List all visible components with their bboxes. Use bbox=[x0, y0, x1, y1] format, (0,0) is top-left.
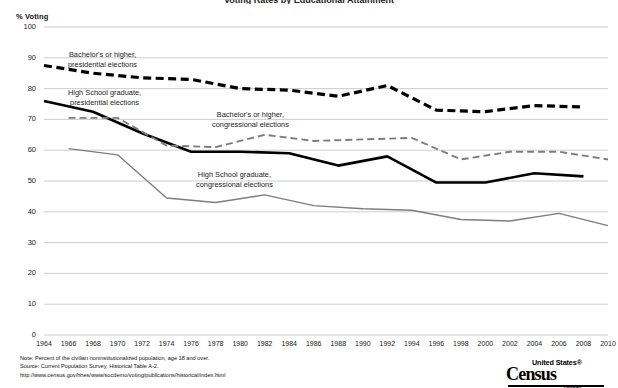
x-tick-label: 2008 bbox=[570, 340, 596, 348]
x-tick-label: 2004 bbox=[521, 340, 547, 348]
highschool-congressional-label: High School graduate,congressional elect… bbox=[196, 170, 273, 189]
bachelors-presidential-label-line1: Bachelor's or higher, bbox=[68, 50, 137, 60]
highschool-congressional-label-line1: High School graduate, bbox=[196, 170, 273, 180]
gridlines bbox=[44, 27, 608, 335]
x-tick-label: 1998 bbox=[448, 340, 474, 348]
series-line-3 bbox=[69, 149, 608, 226]
logo-bureau-text: Bureau bbox=[564, 384, 581, 388]
y-tick-label: 80 bbox=[10, 85, 36, 93]
x-tick-label: 2002 bbox=[497, 340, 523, 348]
y-tick-label: 60 bbox=[10, 146, 36, 154]
x-tick-label: 1984 bbox=[276, 340, 302, 348]
bachelors-congressional-label: Bachelor's or higher,congressional elect… bbox=[212, 110, 289, 129]
logo-rule bbox=[508, 385, 604, 387]
y-tick-label: 0 bbox=[10, 331, 36, 339]
y-tick-label: 50 bbox=[10, 177, 36, 185]
chart-page: Voting Rates by Educational Attainment %… bbox=[0, 0, 618, 388]
x-tick-label: 2010 bbox=[595, 340, 618, 348]
x-tick-label: 1994 bbox=[399, 340, 425, 348]
footnote-note: Note: Percent of the civilian noninstitu… bbox=[20, 354, 226, 362]
bachelors-congressional-label-line2: congressional elections bbox=[212, 120, 289, 130]
highschool-presidential-label: High School graduate,presidential electi… bbox=[68, 88, 141, 107]
y-tick-label: 100 bbox=[10, 23, 36, 31]
x-tick-label: 2000 bbox=[472, 340, 498, 348]
x-tick-label: 1996 bbox=[423, 340, 449, 348]
x-tick-label: 1964 bbox=[31, 340, 57, 348]
x-tick-label: 2006 bbox=[546, 340, 572, 348]
chart-footnotes: Note: Percent of the civilian noninstitu… bbox=[20, 354, 226, 379]
y-tick-label: 20 bbox=[10, 269, 36, 277]
bachelors-congressional-label-line1: Bachelor's or higher, bbox=[212, 110, 289, 120]
highschool-presidential-label-line1: High School graduate, bbox=[68, 88, 141, 98]
y-tick-label: 10 bbox=[10, 300, 36, 308]
x-tick-label: 1988 bbox=[325, 340, 351, 348]
x-tick-label: 1990 bbox=[350, 340, 376, 348]
x-tick-label: 1992 bbox=[374, 340, 400, 348]
x-tick-label: 1966 bbox=[56, 340, 82, 348]
bachelors-presidential-label: Bachelor's or higher,presidential electi… bbox=[68, 50, 137, 69]
bachelors-presidential-label-line2: presidential elections bbox=[68, 60, 137, 70]
footnote-source: Source: Current Population Survey, Histo… bbox=[20, 362, 226, 370]
x-tick-label: 1968 bbox=[80, 340, 106, 348]
x-tick-label: 1982 bbox=[252, 340, 278, 348]
x-tick-label: 1974 bbox=[154, 340, 180, 348]
y-tick-label: 30 bbox=[10, 239, 36, 247]
x-tick-label: 1986 bbox=[301, 340, 327, 348]
y-tick-label: 90 bbox=[10, 54, 36, 62]
census-bureau-logo: United States® Census Bureau bbox=[502, 358, 614, 388]
x-tick-label: 1978 bbox=[203, 340, 229, 348]
x-tick-label: 1980 bbox=[227, 340, 253, 348]
logo-census-text: Census bbox=[506, 364, 556, 385]
series-line-2 bbox=[69, 118, 608, 160]
footnote-url[interactable]: http://www.census.gov/hhes/www/socdemo/v… bbox=[20, 371, 226, 379]
highschool-congressional-label-line2: congressional elections bbox=[196, 180, 273, 190]
x-tick-label: 1970 bbox=[105, 340, 131, 348]
highschool-presidential-label-line2: presidential elections bbox=[68, 98, 141, 108]
x-tick-label: 1972 bbox=[129, 340, 155, 348]
x-tick-label: 1976 bbox=[178, 340, 204, 348]
y-tick-label: 70 bbox=[10, 115, 36, 123]
y-tick-label: 40 bbox=[10, 208, 36, 216]
